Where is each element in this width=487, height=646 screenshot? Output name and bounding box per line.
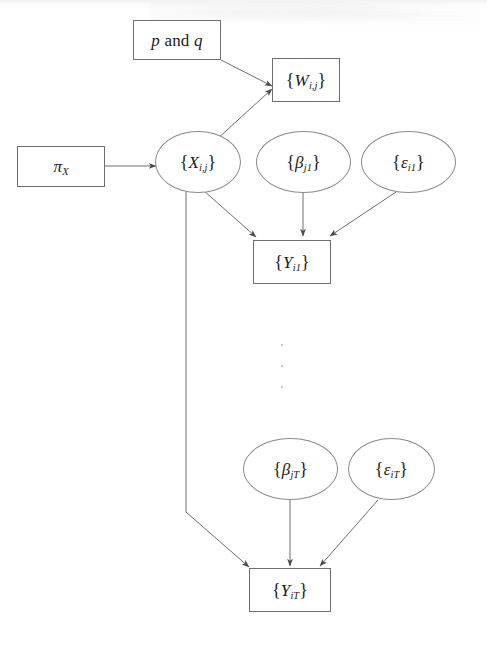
base-beta: β: [295, 153, 304, 172]
node-epsilon-iT-label: {εiT}: [375, 460, 408, 478]
node-p-and-q: p and q: [133, 20, 221, 60]
figure-canvas: p and q {Wi,j} πX {Xi,j} {βj1} {εi1} {Yi…: [0, 0, 487, 646]
node-beta-jT: {βjT}: [243, 438, 338, 500]
node-beta-jT-label: {βjT}: [273, 460, 308, 478]
base-Y: Y: [283, 253, 293, 272]
base-epsilon: ε: [384, 460, 391, 479]
subscript-ij: i,j: [199, 162, 207, 173]
base-W: W: [295, 71, 309, 90]
brace-open: {: [392, 152, 401, 172]
node-pi-x-label: πX: [53, 158, 68, 175]
brace-open: {: [286, 152, 295, 172]
conjunction-and: and: [164, 31, 189, 50]
ellipsis-dot: [281, 386, 283, 388]
brace-close: }: [312, 152, 321, 172]
brace-close: }: [299, 459, 308, 479]
symbol-q: q: [194, 31, 203, 50]
brace-open: {: [272, 580, 281, 600]
vertical-ellipsis: [276, 344, 288, 388]
brace-close: }: [301, 252, 310, 272]
base-pi: π: [53, 157, 62, 176]
edge-x-to-y1: [203, 190, 256, 237]
subscript-jT: jT: [290, 469, 299, 480]
subscript-i1: i1: [408, 162, 416, 173]
brace-open: {: [273, 459, 282, 479]
node-w-ij-label: {Wi,j}: [286, 71, 327, 89]
node-p-and-q-label: p and q: [151, 32, 202, 49]
ellipsis-dot: [281, 365, 283, 367]
node-y-iT: {YiT}: [249, 568, 331, 612]
edge-epsT-to-yT: [320, 500, 378, 566]
edge-x-to-yT: [186, 192, 249, 567]
brace-close: }: [399, 459, 408, 479]
node-beta-j1: {βj1}: [256, 131, 351, 193]
brace-open: {: [375, 459, 384, 479]
base-epsilon: ε: [401, 153, 408, 172]
brace-close: }: [299, 580, 308, 600]
subscript-i1: i1: [293, 262, 301, 273]
subscript-X: X: [62, 166, 68, 177]
node-x-ij-label: {Xi,j}: [180, 153, 217, 171]
base-X: X: [188, 153, 199, 172]
node-y-i1: {Yi1}: [253, 240, 331, 284]
ellipsis-dot: [281, 344, 283, 346]
subscript-iT: iT: [290, 590, 299, 601]
edge-layer: [0, 0, 487, 646]
brace-close: }: [317, 70, 326, 90]
edge-eps1-to-y1: [330, 192, 396, 236]
symbol-p: p: [151, 31, 160, 50]
brace-open: {: [286, 70, 295, 90]
edge-pq-to-w: [221, 60, 272, 86]
brace-close: }: [416, 152, 425, 172]
node-epsilon-iT: {εiT}: [348, 438, 435, 500]
subscript-iT: iT: [391, 469, 400, 480]
subscript-j1: j1: [304, 162, 312, 173]
node-y-i1-label: {Yi1}: [274, 253, 310, 271]
node-epsilon-i1-label: {εi1}: [392, 153, 425, 171]
base-Y: Y: [281, 581, 291, 600]
brace-open: {: [274, 252, 283, 272]
node-x-ij: {Xi,j}: [155, 131, 241, 193]
node-beta-j1-label: {βj1}: [286, 153, 321, 171]
brace-close: }: [208, 152, 217, 172]
node-w-ij: {Wi,j}: [272, 58, 340, 102]
node-epsilon-i1: {εi1}: [361, 131, 456, 193]
node-y-iT-label: {YiT}: [272, 581, 308, 599]
edge-x-to-w: [216, 89, 272, 140]
node-pi-x: πX: [17, 146, 105, 187]
